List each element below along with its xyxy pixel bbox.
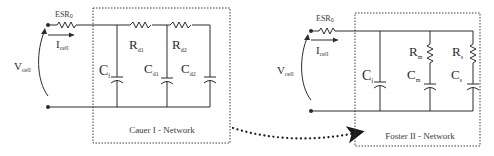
cauer-cd2-capacitor — [204, 25, 216, 107]
cauer-network-title: Cauer I - Network — [129, 125, 195, 135]
foster-voltage-label: Vcell — [277, 64, 294, 77]
foster-cm-capacitor — [424, 84, 436, 111]
cauer-network-box — [93, 8, 230, 143]
foster-network-title: Foster II - Network — [385, 131, 455, 141]
foster-rm-resistor — [427, 31, 433, 84]
circuit-diagram: ESR0 Icell Vcell Rd1 Rd2 Cf — [0, 0, 494, 156]
cauer-voltage-arc — [39, 30, 48, 96]
cauer-esr-label: ESR0 — [55, 10, 73, 19]
cauer-voltage-arrowhead-icon — [41, 28, 47, 34]
cauer-cd1-label: Cd1 — [144, 61, 159, 77]
foster-rs-label: Rs — [452, 44, 464, 60]
cauer-rd1-label: Rd1 — [129, 37, 144, 53]
foster-voltage-arc — [302, 36, 311, 100]
foster-cs-capacitor — [467, 84, 479, 111]
cauer-current-label: Icell — [56, 38, 69, 51]
cauer-voltage-label: Vcell — [14, 60, 31, 73]
foster-network: ESR0 Icell Vcell Cf Rm Cm — [277, 13, 480, 146]
foster-esr-resistor — [311, 28, 473, 34]
foster-voltage-arrowhead-icon — [304, 34, 310, 40]
foster-esr-label: ESR0 — [316, 14, 334, 23]
cauer-cf-capacitor — [111, 25, 123, 107]
foster-cs-label: Cs — [451, 67, 463, 83]
cauer-rd2-label: Rd2 — [172, 37, 187, 53]
cauer-network: ESR0 Icell Vcell Rd1 Rd2 Cf — [14, 8, 230, 143]
cauer-cd2-label: Cd2 — [181, 61, 196, 77]
transform-arrow — [233, 128, 356, 138]
cauer-current-arrowhead-icon — [69, 33, 74, 38]
foster-current-arrowhead-icon — [333, 38, 338, 43]
foster-cf-label: Cf — [362, 68, 373, 84]
foster-rm-label: Rm — [409, 44, 423, 60]
cauer-cf-label: Cf — [99, 63, 110, 79]
foster-current-label: Icell — [316, 44, 329, 57]
foster-cf-capacitor — [374, 31, 386, 111]
foster-cm-label: Cm — [407, 67, 421, 83]
foster-rs-resistor — [470, 31, 476, 84]
